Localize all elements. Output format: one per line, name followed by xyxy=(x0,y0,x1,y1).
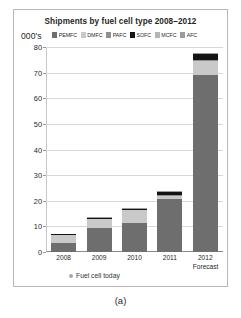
legend-swatch-icon xyxy=(52,32,57,37)
chart-legend: PEMFCDMFCPAFCSOFCMCFCAFC xyxy=(52,32,226,38)
legend-label: PAFC xyxy=(113,32,127,38)
y-tick-label: 0 xyxy=(38,248,42,257)
bar-2008[interactable] xyxy=(51,47,76,252)
bar-segment-pemfc xyxy=(122,223,147,252)
bar-2009[interactable] xyxy=(87,47,112,252)
x-tick-2008: 2008 xyxy=(51,253,76,271)
x-tick-2011: 2011 xyxy=(157,253,182,271)
bar-segment-dmfc xyxy=(87,219,112,228)
legend-label: SOFC xyxy=(137,32,152,38)
y-axis-unit-label: 000's xyxy=(21,31,42,41)
legend-label: PEMFC xyxy=(59,32,77,38)
annotation-fuel-cell-today: Fuel cell today xyxy=(69,272,120,279)
y-tick-label: 40 xyxy=(34,145,42,154)
x-tick-label: 2009 xyxy=(92,254,107,261)
bar-segment-dmfc xyxy=(51,235,76,243)
x-axis-labels: 20082009201020112012Forecast xyxy=(46,253,223,271)
x-tick-2010: 2010 xyxy=(122,253,147,271)
legend-label: AFC xyxy=(187,32,197,38)
legend-swatch-icon xyxy=(81,32,86,37)
figure-panel: Shipments by fuel cell type 2008–2012 00… xyxy=(0,0,241,318)
bar-segment-pemfc xyxy=(87,228,112,252)
x-tick-2009: 2009 xyxy=(87,253,112,271)
annotation-label: Fuel cell today xyxy=(76,272,120,279)
bar-2012[interactable] xyxy=(193,47,218,252)
legend-swatch-icon xyxy=(130,32,135,37)
bar-segment-pemfc xyxy=(193,75,218,252)
legend-label: MCFC xyxy=(161,32,176,38)
y-tick-label: 50 xyxy=(34,119,42,128)
legend-item-afc[interactable]: AFC xyxy=(180,32,197,38)
legend-label: DMFC xyxy=(87,32,102,38)
y-tick-label: 30 xyxy=(34,171,42,180)
chart-title: Shipments by fuel cell type 2008–2012 xyxy=(14,17,227,26)
y-tick-label: 20 xyxy=(34,196,42,205)
bar-segment-dmfc xyxy=(193,61,218,75)
y-tick-label: 10 xyxy=(34,222,42,231)
legend-item-pafc[interactable]: PAFC xyxy=(106,32,126,38)
x-tick-sublabel: Forecast xyxy=(193,262,218,271)
legend-item-sofc[interactable]: SOFC xyxy=(130,32,151,38)
x-tick-label: 2010 xyxy=(127,254,142,261)
legend-swatch-icon xyxy=(106,32,111,37)
bar-segment-pemfc xyxy=(157,199,182,252)
x-tick-label: 2012 xyxy=(198,254,213,261)
legend-swatch-icon xyxy=(155,32,160,37)
chart-frame: Shipments by fuel cell type 2008–2012 00… xyxy=(13,9,228,287)
legend-item-dmfc[interactable]: DMFC xyxy=(81,32,103,38)
y-tick-label: 60 xyxy=(34,94,42,103)
legend-swatch-icon xyxy=(180,32,185,37)
dot-marker-icon xyxy=(69,274,73,278)
y-tick-label: 70 xyxy=(34,68,42,77)
bar-2011[interactable] xyxy=(157,47,182,252)
x-tick-label: 2008 xyxy=(56,254,71,261)
x-tick-label: 2011 xyxy=(163,254,177,261)
legend-item-pemfc[interactable]: PEMFC xyxy=(52,32,77,38)
plot-area: 80706050403020100 xyxy=(46,47,223,252)
bar-segment-pemfc xyxy=(51,243,76,252)
y-tick-label: 80 xyxy=(34,43,42,52)
bar-2010[interactable] xyxy=(122,47,147,252)
figure-caption: (a) xyxy=(0,295,241,306)
x-tick-2012: 2012Forecast xyxy=(193,253,218,271)
bar-segment-dmfc xyxy=(122,210,147,223)
legend-item-mcfc[interactable]: MCFC xyxy=(155,32,177,38)
bar-group xyxy=(46,47,223,252)
